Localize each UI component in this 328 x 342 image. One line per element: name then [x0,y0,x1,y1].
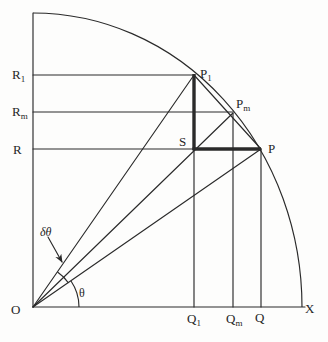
thin-lines-group [33,13,305,307]
label-theta: θ [79,286,85,300]
label-Pm: Pm [236,96,250,113]
ray-O-Pm [33,113,233,307]
label-R1: R1 [12,67,25,84]
label-S: S [179,134,186,149]
arcs-group [33,13,302,307]
label-O: O [11,302,20,317]
label-P1: P1 [200,66,212,83]
delta-theta-arrow [48,237,62,262]
label-R: R [13,142,22,157]
geometry-diagram: OXR1RmRQ1QmQP1PmPSθδθ [0,0,328,342]
label-Rm: Rm [12,104,28,121]
labels-group: OXR1RmRQ1QmQP1PmPSθδθ [11,66,315,328]
ray-O-P1 [33,75,194,307]
label-Qm: Qm [226,311,242,328]
label-Q: Q [255,310,265,325]
figure-canvas: OXR1RmRQ1QmQP1PmPSθδθ [0,0,328,342]
ray-O-P [33,149,261,307]
label-Q1: Q1 [187,311,201,328]
label-delta-theta: δθ [40,225,52,239]
quarter-circle-arc [33,13,302,307]
label-P: P [268,141,275,156]
theta-angle-arc [71,281,79,307]
label-X: X [305,301,315,316]
